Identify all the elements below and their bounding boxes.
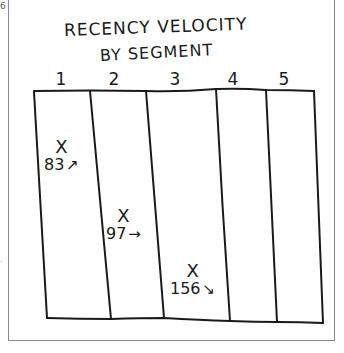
x-marker-icon: X — [44, 138, 79, 156]
segment-3-marker: X 156↘ — [170, 262, 215, 298]
value-text: 97 — [106, 224, 126, 243]
grid-line-1 — [90, 91, 111, 319]
trend-down-arrow-icon: ↘ — [203, 280, 216, 298]
grid-line-4 — [266, 90, 277, 322]
value-text: 83 — [44, 155, 64, 174]
grid-bottom-border — [47, 318, 323, 323]
grid-line-0 — [34, 92, 47, 318]
x-marker-icon: X — [106, 207, 141, 225]
grid-line-5 — [314, 91, 323, 323]
column-label-5: 5 — [274, 69, 294, 89]
value-text: 156 — [170, 279, 201, 298]
column-label-1: 1 — [51, 69, 71, 89]
grid-line-3 — [216, 89, 230, 321]
grid-top-border — [34, 89, 314, 92]
x-marker-icon: X — [170, 262, 215, 280]
trend-up-arrow-icon: ↗ — [66, 156, 79, 174]
grid-line-2 — [146, 91, 164, 318]
column-label-2: 2 — [104, 69, 124, 89]
column-label-3: 3 — [165, 69, 185, 89]
segment-3-value: 156↘ — [170, 280, 215, 298]
segment-2-marker: X 97→ — [106, 207, 141, 243]
trend-flat-arrow-icon: → — [128, 225, 141, 243]
segment-1-marker: X 83↗ — [44, 138, 79, 174]
segment-2-value: 97→ — [106, 225, 141, 243]
column-label-4: 4 — [223, 69, 243, 89]
segment-1-value: 83↗ — [44, 156, 79, 174]
